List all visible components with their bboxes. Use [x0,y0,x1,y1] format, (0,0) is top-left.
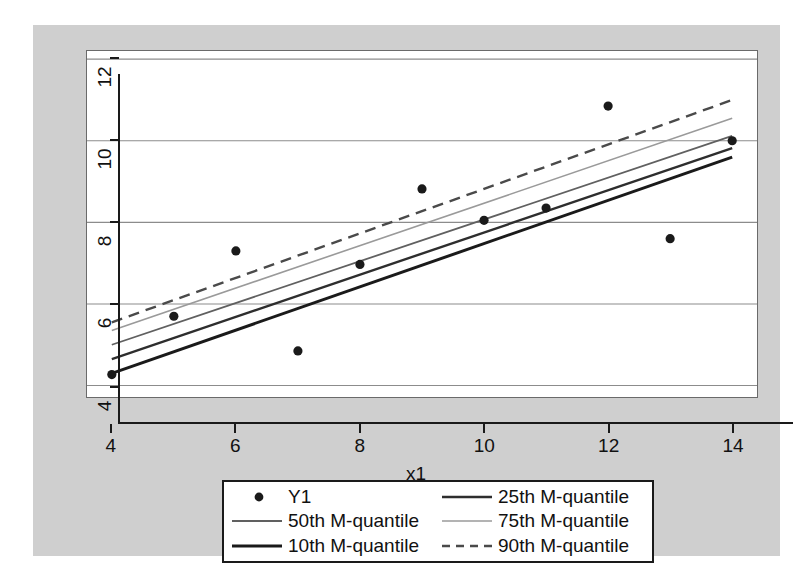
legend-line-icon [436,511,498,531]
legend-entry: Y1 [226,485,436,509]
x-tick-10 [483,424,485,433]
legend-label: 90th M-quantile [498,535,629,557]
legend-entry: 10th M-quantile [226,534,436,558]
x-tick-label-6: 6 [213,435,257,457]
legend-label: Y1 [288,486,311,508]
legend-line-icon [226,536,288,556]
legend-entry: 25th M-quantile [436,485,646,509]
x-tick-4 [110,424,112,433]
x-tick-label-4: 4 [89,435,133,457]
legend-entry: 75th M-quantile [436,509,646,533]
x-tick-label-10: 10 [462,435,506,457]
x-tick-label-8: 8 [338,435,382,457]
legend-line-icon [226,511,288,531]
legend-label: 75th M-quantile [498,510,629,532]
x-tick-label-14: 14 [711,435,755,457]
figure-background: 1210864 468101214 x1 Y125th M-quantile50… [33,25,780,556]
chart-legend: Y125th M-quantile50th M-quantile75th M-q… [222,480,654,563]
x-tick-6 [234,424,236,433]
x-tick-12 [608,424,610,433]
legend-label: 50th M-quantile [288,510,419,532]
legend-entry: 90th M-quantile [436,534,646,558]
circle-icon [255,493,264,502]
legend-line-icon [436,536,498,556]
legend-label: 10th M-quantile [288,535,419,557]
legend-marker-icon [226,487,288,507]
x-tick-label-12: 12 [587,435,631,457]
x-tick-8 [359,424,361,433]
legend-line-icon [436,487,498,507]
x-tick-14 [732,424,734,433]
legend-label: 25th M-quantile [498,486,629,508]
legend-entry: 50th M-quantile [226,509,436,533]
